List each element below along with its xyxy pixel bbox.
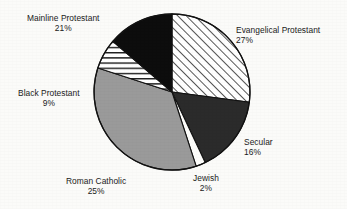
- slice-label-roman-catholic: Roman Catholic 25%: [66, 176, 126, 197]
- slice-label-name: Roman Catholic: [66, 176, 126, 186]
- slice-label-value: 21%: [27, 23, 99, 33]
- slice-label-jewish: Jewish 2%: [193, 173, 219, 194]
- slice-label-value: 16%: [244, 147, 273, 157]
- pie-slices: [94, 14, 250, 170]
- slice-label-value: 9%: [18, 98, 80, 108]
- slice-label-name: Secular: [244, 137, 273, 147]
- slice-label-mainline-protestant: Mainline Protestant 21%: [27, 13, 99, 34]
- slice-label-evangelical-protestant: Evangelical Protestant 27%: [236, 25, 320, 46]
- slice-label-name: Jewish: [193, 173, 219, 183]
- pie-chart: Mainline Protestant 21% Evangelical Prot…: [0, 0, 347, 209]
- slice-label-black-protestant: Black Protestant 9%: [18, 88, 80, 109]
- slice-label-name: Mainline Protestant: [27, 13, 99, 23]
- slice-label-name: Black Protestant: [18, 88, 80, 98]
- slice-label-value: 2%: [193, 183, 219, 193]
- slice-label-value: 25%: [66, 186, 126, 196]
- slice-label-value: 27%: [236, 35, 320, 45]
- slice-label-name: Evangelical Protestant: [236, 25, 320, 35]
- slice-label-secular: Secular 16%: [244, 137, 273, 158]
